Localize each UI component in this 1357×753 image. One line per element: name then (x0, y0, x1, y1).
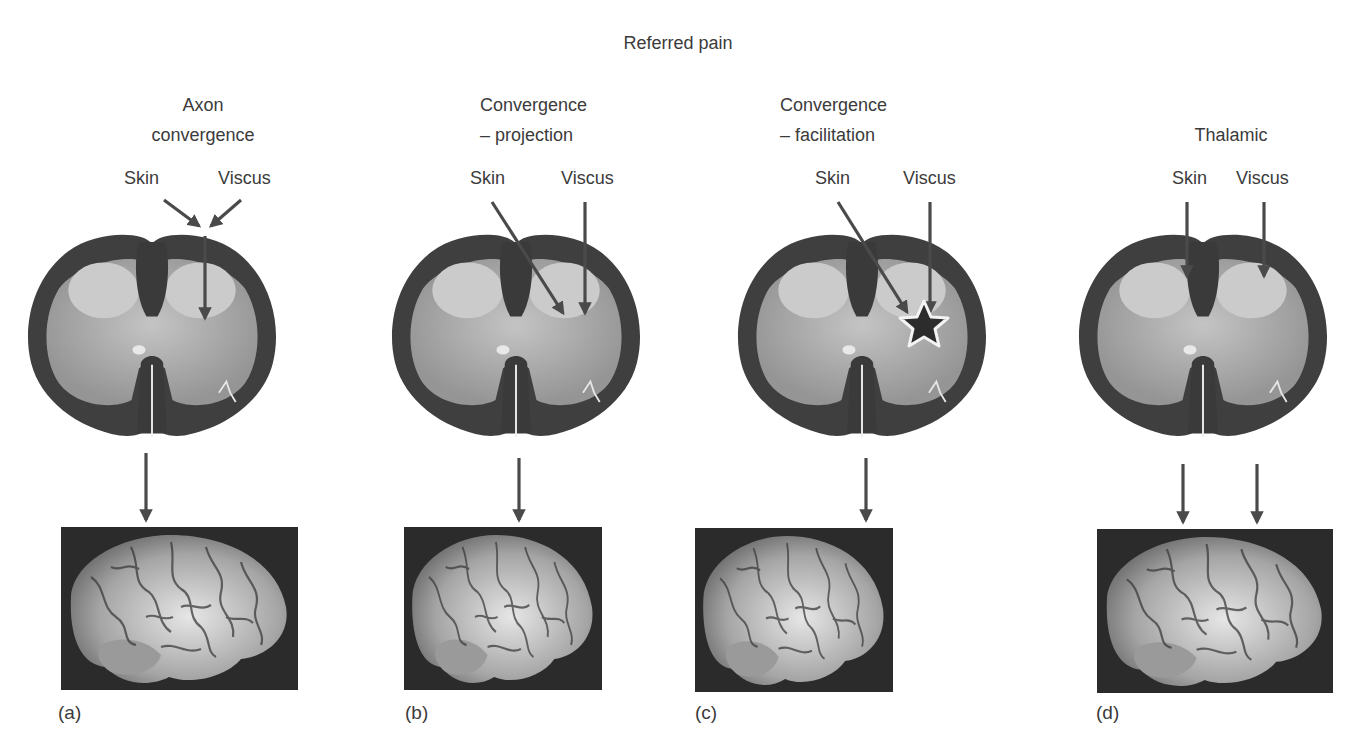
panel-b-spinal-cord (392, 235, 640, 437)
panel-a-skin-arrow (164, 200, 199, 226)
panel-a-label: (a) (58, 702, 81, 724)
panel-d-label: (d) (1096, 702, 1119, 724)
panel-b-label: (b) (405, 702, 428, 724)
panel-c-spinal-cord (738, 235, 986, 437)
diagram-layer (0, 0, 1357, 753)
panel-a-spinal-cord (28, 235, 276, 437)
panel-a-viscus-arrow (211, 200, 241, 226)
panel-c-label: (c) (695, 702, 717, 724)
panel-d-spinal-cord (1079, 235, 1327, 437)
